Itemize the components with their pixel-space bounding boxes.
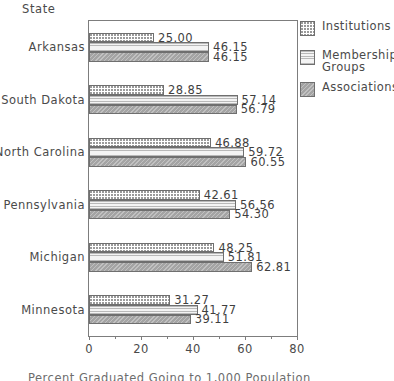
x-axis-tick xyxy=(89,336,90,340)
chart-legend: Institutions Membership Groups Associati… xyxy=(298,20,394,110)
bar-group: North Carolina46.8859.7260.55 xyxy=(89,126,297,179)
bar-associations[interactable] xyxy=(89,315,191,325)
legend-item-institutions[interactable]: Institutions xyxy=(298,20,394,42)
bar-row: 31.27 xyxy=(89,295,297,305)
bar-row: 41.77 xyxy=(89,305,297,315)
category-label: Arkansas xyxy=(29,40,85,54)
bar-associations[interactable] xyxy=(89,105,237,115)
bar-associations[interactable] xyxy=(89,157,246,167)
x-axis-tick xyxy=(141,336,142,340)
bar-institutions[interactable] xyxy=(89,138,211,148)
x-axis-minor-tick xyxy=(219,336,220,339)
bar-row: 54.30 xyxy=(89,210,297,220)
legend-swatch-institutions xyxy=(300,21,315,36)
bar-value-label: 60.55 xyxy=(250,155,285,169)
x-axis-tick-label: 80 xyxy=(289,342,304,356)
bar-institutions[interactable] xyxy=(89,33,154,43)
x-axis-tick-label: 40 xyxy=(185,342,200,356)
bar-institutions[interactable] xyxy=(89,295,170,305)
bar-group: Michigan48.2551.8162.81 xyxy=(89,231,297,284)
y-axis-title: State xyxy=(22,2,55,16)
legend-label-membership-groups: Membership Groups xyxy=(322,49,394,74)
bar-institutions[interactable] xyxy=(89,190,200,200)
bar-value-label: 54.30 xyxy=(234,207,269,221)
bar-group: Arkansas25.0046.1546.15 xyxy=(89,21,297,74)
legend-label-associations: Associations xyxy=(322,81,394,93)
bar-membership-groups[interactable] xyxy=(89,147,244,157)
bar-membership-groups[interactable] xyxy=(89,252,224,262)
bar-membership-groups[interactable] xyxy=(89,42,209,52)
x-axis-minor-tick xyxy=(115,336,116,339)
bar-associations[interactable] xyxy=(89,52,209,62)
bar-row: 46.15 xyxy=(89,52,297,62)
bar-row: 48.25 xyxy=(89,243,297,253)
chart-caption: Percent Graduated Going to 1,000 Populat… xyxy=(28,371,368,381)
bar-group: Pennsylvania42.6156.5654.30 xyxy=(89,179,297,232)
x-axis-tick xyxy=(193,336,194,340)
category-label: North Carolina xyxy=(0,145,85,159)
category-label: Pennsylvania xyxy=(3,198,85,212)
bar-value-label: 39.11 xyxy=(195,312,230,326)
x-axis-tick xyxy=(297,336,298,340)
bar-institutions[interactable] xyxy=(89,85,164,95)
bar-row: 46.15 xyxy=(89,42,297,52)
x-axis-tick-label: 60 xyxy=(237,342,252,356)
bar-value-label: 62.81 xyxy=(256,260,291,274)
bar-row: 60.55 xyxy=(89,157,297,167)
legend-swatch-associations xyxy=(300,82,315,97)
x-axis-tick-label: 20 xyxy=(133,342,148,356)
bar-row: 25.00 xyxy=(89,33,297,43)
bar-membership-groups[interactable] xyxy=(89,200,236,210)
bar-row: 39.11 xyxy=(89,315,297,325)
x-axis-minor-tick xyxy=(167,336,168,339)
x-axis-minor-tick xyxy=(271,336,272,339)
category-label: Michigan xyxy=(29,250,85,264)
bar-value-label: 56.79 xyxy=(241,102,276,116)
bar-group: South Dakota28.8557.1456.79 xyxy=(89,74,297,127)
legend-label-institutions: Institutions xyxy=(322,20,394,32)
x-axis-tick xyxy=(245,336,246,340)
bar-institutions[interactable] xyxy=(89,243,214,253)
bar-value-label: 46.15 xyxy=(213,50,248,64)
horizontal-bar-chart: State Arkansas25.0046.1546.15South Dakot… xyxy=(0,0,394,381)
plot-area: Arkansas25.0046.1546.15South Dakota28.85… xyxy=(88,20,298,337)
legend-swatch-membership-groups xyxy=(300,50,315,65)
bar-group: Minnesota31.2741.7739.11 xyxy=(89,284,297,337)
bar-associations[interactable] xyxy=(89,210,230,220)
x-axis-tick-label: 0 xyxy=(85,342,93,356)
bar-membership-groups[interactable] xyxy=(89,305,198,315)
bar-membership-groups[interactable] xyxy=(89,95,238,105)
legend-item-associations[interactable]: Associations xyxy=(298,81,394,103)
bar-row: 62.81 xyxy=(89,262,297,272)
legend-item-membership-groups[interactable]: Membership Groups xyxy=(298,49,394,74)
category-label: Minnesota xyxy=(21,303,85,317)
bar-associations[interactable] xyxy=(89,262,252,272)
bar-row: 56.79 xyxy=(89,105,297,115)
category-label: South Dakota xyxy=(1,93,85,107)
